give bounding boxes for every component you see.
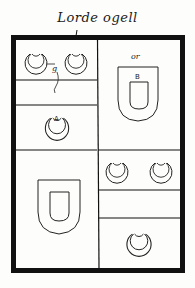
tincture-label-or: or: [131, 52, 141, 61]
crescent-charge-bottom-right-2: [150, 163, 172, 183]
crescent-charge-top-left-2: [65, 54, 87, 74]
tincture-label-g: g: [52, 64, 57, 73]
inescutcheon-bottom-left: [38, 180, 80, 234]
vertical-divider: [98, 40, 100, 268]
tincture-label-a: A: [54, 115, 59, 123]
coat-of-arms-diagram: g A or B: [0, 0, 195, 288]
crescent-charge-top-left-1: [25, 54, 47, 74]
tincture-label-b: B: [135, 73, 140, 81]
crescent-charge-bottom-right-1: [106, 163, 128, 183]
crescent-charge-bottom-right-3: [127, 234, 151, 256]
